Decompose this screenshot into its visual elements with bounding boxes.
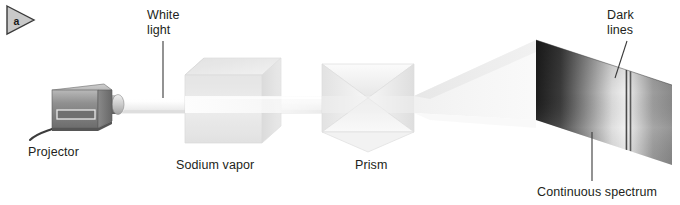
beam-segment-highlight (185, 97, 335, 100)
projector-cord (30, 129, 52, 140)
label-prism: Prism (355, 158, 387, 173)
projector-front-face (52, 90, 98, 128)
beam-segment-prism (322, 96, 414, 113)
figure-panel: a (0, 0, 680, 205)
dispersed-fan-beam (414, 40, 536, 128)
spectrum-shading (536, 40, 672, 165)
prism-apex-facet (322, 132, 414, 152)
diagram-canvas: a (0, 0, 680, 205)
label-white-light: White light (147, 8, 179, 39)
beam-at-prism (322, 96, 414, 113)
triangle-play-badge-icon (7, 6, 34, 34)
panel-badge: a (7, 6, 34, 34)
beam-through-cell (185, 96, 335, 113)
projector-icon (30, 84, 124, 140)
projector-lens (112, 95, 124, 115)
continuous-spectrum (536, 40, 672, 165)
label-projector: Projector (28, 145, 79, 160)
projector-film-slot (57, 110, 95, 119)
label-sodium-vapor: Sodium vapor (176, 158, 254, 173)
label-dark-lines: Dark lines (607, 8, 634, 39)
panel-badge-letter: a (14, 15, 20, 27)
label-continuous-spectrum: Continuous spectrum (537, 185, 657, 200)
